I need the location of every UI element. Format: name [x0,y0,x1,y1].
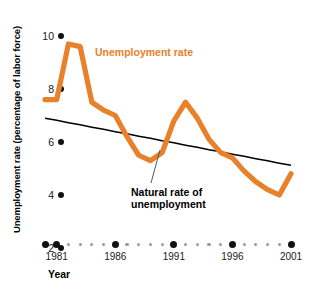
natural-rate-label: Natural rate of unemployment [131,186,206,210]
unemployment-chart: Unemployment rate (percentage of labor f… [0,0,316,294]
plot-area [0,0,316,294]
natural-rate-label-line2: unemployment [131,198,206,210]
unemployment-rate-label: Unemployment rate [95,46,193,58]
unemployment-rate-line [45,44,291,195]
natural-rate-label-line1: Natural rate of [131,186,206,198]
